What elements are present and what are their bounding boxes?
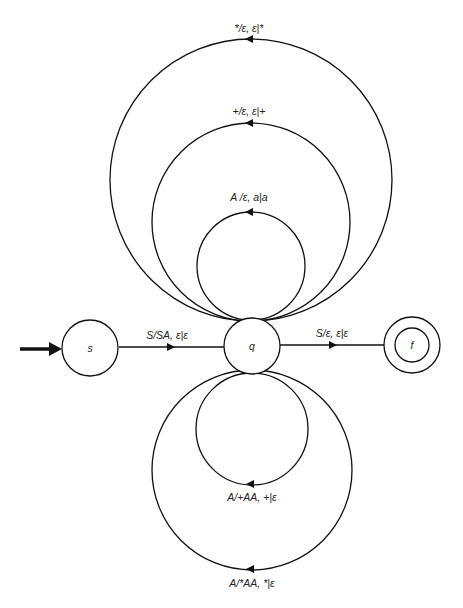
arrowhead-loop-a: [245, 208, 253, 216]
self-loop-star: [110, 39, 392, 321]
label-loop-plusAA: A/+AA, +|ε: [226, 491, 277, 503]
arrowhead-q-f: [329, 341, 337, 349]
label-loop-starAA: A/*AA, *|ε: [228, 577, 275, 589]
state-q-label: q: [249, 340, 255, 352]
arrowhead-s-q: [167, 343, 175, 351]
self-loop-starAA: [152, 370, 352, 570]
arrowhead-loop-starAA: [246, 565, 254, 573]
arrowhead-loop-star: [245, 35, 253, 43]
self-loop-a: [197, 212, 305, 320]
label-loop-a: A /ε, a|a: [229, 191, 267, 203]
label-loop-plus: +/ε, ε|+: [233, 105, 266, 117]
arrowhead-loop-plus: [245, 119, 253, 127]
state-s-label: s: [87, 342, 93, 354]
self-loop-plusAA: [196, 373, 308, 485]
self-loop-plus: [152, 123, 350, 321]
label-s-q: S/SA, ε|ε: [146, 329, 188, 341]
label-loop-star: */ε, ε|*: [235, 22, 265, 34]
pda-diagram: s q f S/SA, ε|ε S/ε, ε|ε A /ε, a|a +/ε, …: [0, 0, 463, 608]
start-arrowhead: [49, 342, 62, 356]
arrowhead-loop-plusAA: [246, 480, 254, 488]
label-q-f: S/ε, ε|ε: [316, 327, 349, 339]
